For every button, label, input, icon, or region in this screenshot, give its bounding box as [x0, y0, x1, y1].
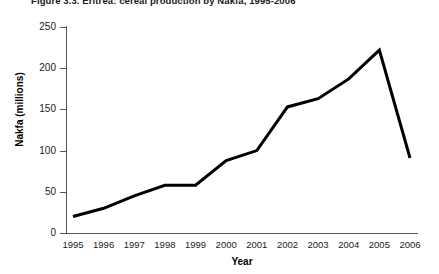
x-axis-title: Year	[66, 256, 418, 267]
y-axis-tick	[60, 68, 66, 69]
y-axis-tick	[60, 151, 66, 152]
x-axis-labels: 1995199619971998199920002001200220032004…	[66, 239, 418, 253]
data-series-line	[73, 50, 410, 216]
x-axis-tick-label: 2006	[390, 239, 430, 250]
y-axis-tick	[60, 192, 66, 193]
y-axis-tick	[60, 233, 66, 234]
figure-container: Figure 3.3. Eritrea: cereal production b…	[0, 0, 439, 274]
y-axis-tick	[60, 27, 66, 28]
y-axis-tick	[60, 109, 66, 110]
